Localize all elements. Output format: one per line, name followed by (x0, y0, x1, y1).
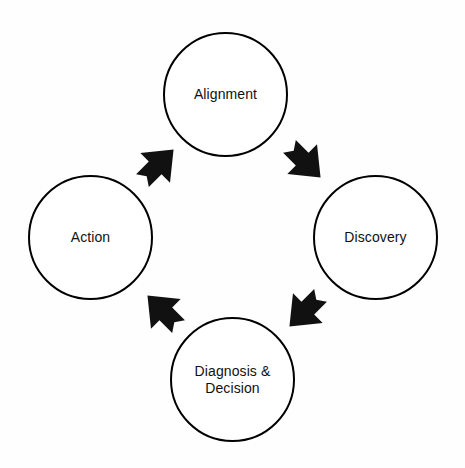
node-action-label: Action (71, 229, 111, 246)
arrow-action-to-alignment (128, 135, 189, 196)
arrow-diagnosis-to-action (133, 281, 194, 342)
node-alignment[interactable]: Alignment (163, 32, 288, 157)
node-discovery-label: Discovery (344, 229, 406, 246)
node-discovery[interactable]: Discovery (313, 175, 438, 300)
node-alignment-label: Alignment (194, 86, 257, 103)
arrow-discovery-to-diagnosis (275, 281, 336, 342)
arrow-alignment-to-discovery (275, 132, 336, 193)
node-action[interactable]: Action (28, 175, 153, 300)
cycle-diagram: Alignment Discovery Diagnosis & Decision… (0, 0, 465, 468)
node-diagnosis[interactable]: Diagnosis & Decision (170, 317, 295, 442)
node-diagnosis-label: Diagnosis & Decision (195, 363, 271, 396)
